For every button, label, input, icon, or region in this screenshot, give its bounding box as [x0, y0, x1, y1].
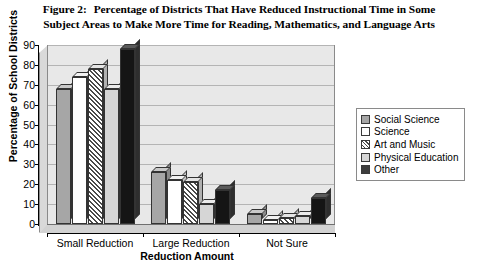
legend-swatch-icon [361, 127, 370, 136]
bar-side [135, 39, 140, 219]
bar[interactable] [295, 216, 310, 224]
y-tick-label: 40 [23, 138, 35, 150]
chart-legend: Social ScienceScienceArt and MusicPhysic… [356, 108, 465, 181]
figure-number: Figure 2: [43, 3, 87, 15]
figure-title-line-2: Subject Areas to Make More Time for Read… [0, 17, 478, 32]
bar-face [247, 214, 262, 224]
legend-item[interactable]: Science [361, 126, 459, 139]
y-tick-label: 60 [23, 99, 35, 111]
bar[interactable] [120, 49, 135, 224]
y-tick-label: 20 [23, 178, 35, 190]
legend-swatch-icon [361, 153, 370, 162]
y-tick-label: 30 [23, 158, 35, 170]
bar[interactable] [311, 198, 326, 224]
legend-item-label: Social Science [374, 114, 440, 125]
bar[interactable] [183, 182, 198, 224]
legend-item[interactable]: Physical Education [361, 151, 459, 164]
bar-face [56, 89, 71, 224]
bar[interactable] [167, 180, 182, 224]
bar-face [88, 69, 103, 224]
y-tick-label: 90 [23, 39, 35, 51]
x-tick-label: Not Sure [266, 237, 307, 249]
x-axis-line [47, 233, 335, 234]
bar[interactable] [199, 204, 214, 224]
legend-item[interactable]: Art and Music [361, 138, 459, 151]
plot-floor [39, 224, 335, 233]
bar[interactable] [56, 89, 71, 224]
bar-groups [48, 45, 334, 224]
bar-face [295, 216, 310, 224]
bar-face [215, 190, 230, 224]
legend-item-label: Art and Music [374, 139, 435, 150]
legend-swatch-icon [361, 115, 370, 124]
bar[interactable] [72, 77, 87, 224]
x-axis: Small ReductionLarge ReductionNot Sure [39, 233, 335, 249]
bar-group [143, 45, 238, 224]
legend-swatch-icon [361, 165, 370, 174]
bar[interactable] [279, 218, 294, 224]
plot-area [39, 45, 335, 233]
x-tick-mark [335, 233, 336, 237]
y-tick-label: 50 [23, 119, 35, 131]
x-tick-mark [47, 233, 48, 237]
bar-group [239, 45, 334, 224]
y-tick-label: 70 [23, 79, 35, 91]
x-tick-label: Small Reduction [57, 237, 133, 249]
legend-item-label: Physical Education [374, 152, 459, 163]
legend-swatch-icon [361, 140, 370, 149]
bar-group [48, 45, 143, 224]
y-axis-title: Percentage of School Districts [7, 1, 19, 171]
bar[interactable] [215, 190, 230, 224]
y-tick-label: 10 [23, 198, 35, 210]
bar[interactable] [88, 69, 103, 224]
figure-title: Figure 2:Percentage of Districts That Ha… [0, 2, 478, 32]
y-axis: 0102030405060708090 [0, 45, 39, 233]
bar-face [311, 198, 326, 224]
x-tick-mark [143, 233, 144, 237]
figure-title-line-1: Figure 2:Percentage of Districts That Ha… [0, 2, 478, 17]
bar-face [120, 49, 135, 224]
bar-face [199, 204, 214, 224]
bar[interactable] [263, 220, 278, 224]
bar-face [167, 180, 182, 224]
x-axis-title: Reduction Amount [39, 250, 335, 262]
bar-face [72, 77, 87, 224]
bar-face [183, 182, 198, 224]
bar[interactable] [151, 172, 166, 224]
bar-face [151, 172, 166, 224]
bar-face [104, 89, 119, 224]
plot-floor-edge [47, 224, 335, 225]
x-tick-label: Large Reduction [152, 237, 229, 249]
bar[interactable] [247, 214, 262, 224]
legend-item[interactable]: Social Science [361, 113, 459, 126]
legend-item[interactable]: Other [361, 163, 459, 176]
figure-title-text-1: Percentage of Districts That Have Reduce… [94, 3, 436, 15]
bar-face [279, 218, 294, 224]
legend-item-label: Other [374, 164, 399, 175]
legend-item-label: Science [374, 126, 410, 137]
y-tick-label: 80 [23, 59, 35, 71]
bar-face [263, 220, 278, 224]
bar[interactable] [104, 89, 119, 224]
x-tick-mark [239, 233, 240, 237]
figure-container: Figure 2:Percentage of Districts That Ha… [0, 0, 478, 275]
